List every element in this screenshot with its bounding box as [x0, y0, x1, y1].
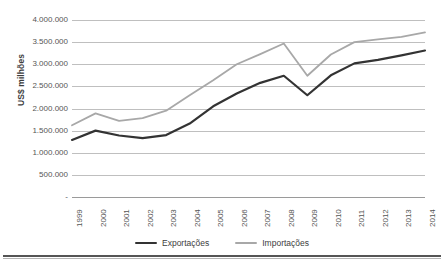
footer-rule — [3, 255, 441, 257]
line-chart: US$ milhões 4.000.0003.500.0003.000.0002… — [0, 0, 444, 267]
y-axis-tick-500000: 500.000 — [14, 171, 68, 179]
series-line-importações — [72, 32, 425, 125]
y-axis-tick-3000000: 3.000.000 — [14, 60, 68, 68]
legend-item-exportações[interactable]: Exportações — [135, 238, 209, 248]
plot-area — [72, 20, 425, 197]
x-axis-tick-2009: 2009 — [311, 209, 319, 227]
x-axis-tick-2012: 2012 — [382, 209, 390, 227]
x-axis-tick-2001: 2001 — [123, 209, 131, 227]
x-axis-tick-2002: 2002 — [147, 209, 155, 227]
y-axis-tick-1500000: 1.500.000 — [14, 127, 68, 135]
x-axis-tick-2007: 2007 — [264, 209, 272, 227]
legend-label: Importações — [262, 238, 309, 248]
x-axis-tick-2010: 2010 — [335, 209, 343, 227]
y-axis-tick-2500000: 2.500.000 — [14, 82, 68, 90]
x-axis-tick-2011: 2011 — [358, 210, 366, 227]
legend-label: Exportações — [162, 238, 209, 248]
legend-item-importações[interactable]: Importações — [235, 238, 309, 248]
y-axis-tick-3500000: 3.500.000 — [14, 38, 68, 46]
x-axis-tick-labels: 1999200020012002200320042005200620072008… — [72, 199, 425, 239]
y-axis-tick-2000000: 2.000.000 — [14, 105, 68, 113]
x-axis-tick-2005: 2005 — [217, 209, 225, 227]
x-axis-tick-2008: 2008 — [288, 209, 296, 227]
x-axis-tick-2000: 2000 — [100, 209, 108, 227]
chart-legend: ExportaçõesImportações — [0, 238, 444, 248]
x-axis-tick-2006: 2006 — [241, 209, 249, 227]
gridline-0 — [72, 197, 425, 198]
legend-swatch-icon — [235, 242, 257, 245]
legend-swatch-icon — [135, 242, 157, 245]
y-axis-tick-4000000: 4.000.000 — [14, 16, 68, 24]
x-axis-tick-1999: 1999 — [76, 209, 84, 227]
x-axis-tick-2004: 2004 — [194, 209, 202, 227]
series-lines — [72, 20, 425, 197]
series-line-exportações — [72, 51, 425, 140]
y-axis-tick-labels: 4.000.0003.500.0003.000.0002.500.0002.00… — [14, 0, 68, 267]
y-axis-tick-1000000: 1.000.000 — [14, 149, 68, 157]
y-axis-tick-0: - — [14, 193, 68, 201]
x-axis-tick-2013: 2013 — [405, 209, 413, 227]
x-axis-tick-2003: 2003 — [170, 209, 178, 227]
x-axis-tick-2014: 2014 — [429, 209, 437, 227]
footer-rule-secondary — [3, 258, 441, 259]
